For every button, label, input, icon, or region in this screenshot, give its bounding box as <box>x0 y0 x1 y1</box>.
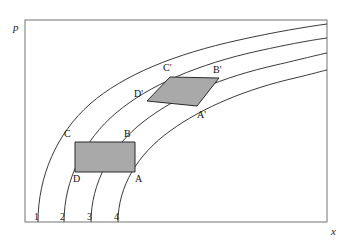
figure-container: p x 1 2 3 4 C B A D C' B' A' D' <box>0 0 343 243</box>
vertex-label-b-prime: B' <box>213 65 221 75</box>
region-abcd-prime <box>147 77 219 106</box>
curve-label-3: 3 <box>87 212 92 222</box>
y-axis-label: p <box>13 22 19 33</box>
curve-2 <box>64 38 327 222</box>
vertex-label-c: C <box>64 129 71 139</box>
vertex-label-c-prime: C' <box>163 63 171 73</box>
curve-label-2: 2 <box>60 212 65 222</box>
x-axis-label: x <box>331 226 336 237</box>
plot-canvas <box>0 0 343 243</box>
vertex-label-d: D <box>73 174 80 184</box>
vertex-label-d-prime: D' <box>134 89 143 99</box>
curve-label-1: 1 <box>34 212 39 222</box>
vertex-label-b: B <box>124 129 131 139</box>
curve-4 <box>118 70 327 222</box>
vertex-label-a-prime: A' <box>197 110 206 120</box>
vertex-label-a: A <box>135 174 142 184</box>
curve-label-4: 4 <box>114 212 119 222</box>
plot-frame <box>25 20 327 222</box>
region-abcd <box>75 142 135 172</box>
